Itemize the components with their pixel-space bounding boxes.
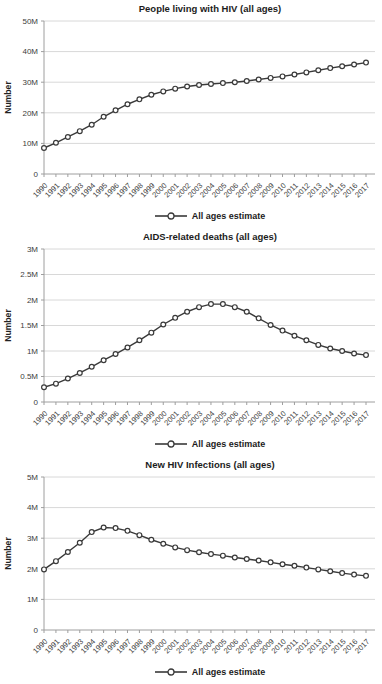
legend-line-marker-icon: [155, 439, 187, 449]
chart-aids-related-deaths: AIDS-related deaths (all ages) 00.5M1M1.…: [0, 228, 382, 456]
svg-text:5M: 5M: [27, 473, 38, 482]
svg-text:2M: 2M: [27, 296, 38, 305]
svg-text:2M: 2M: [27, 565, 38, 574]
svg-text:0: 0: [34, 170, 39, 179]
svg-text:0: 0: [34, 398, 39, 407]
svg-text:10M: 10M: [22, 139, 38, 148]
svg-text:Number: Number: [3, 537, 13, 570]
svg-text:1M: 1M: [27, 347, 38, 356]
svg-text:4M: 4M: [27, 503, 38, 512]
svg-text:0.5M: 0.5M: [20, 372, 38, 381]
svg-text:0: 0: [34, 626, 39, 635]
line-plot-canvas: 01M2M3M4M5M19901991199219931994199519961…: [0, 470, 382, 664]
svg-text:3M: 3M: [27, 534, 38, 543]
svg-text:3M: 3M: [27, 245, 38, 254]
svg-text:Number: Number: [3, 81, 13, 114]
chart-title: New HIV Infections (all ages): [44, 456, 376, 470]
legend-line-marker-icon: [155, 667, 187, 677]
svg-text:Number: Number: [3, 309, 13, 342]
line-plot-canvas: 00.5M1M1.5M2M2.5M3M199019911992199319941…: [0, 242, 382, 436]
svg-text:30M: 30M: [22, 78, 38, 87]
hiv-charts-page: People living with HIV (all ages) 010M20…: [0, 0, 382, 684]
svg-text:2.5M: 2.5M: [20, 270, 38, 279]
chart-people-living-with-hiv: People living with HIV (all ages) 010M20…: [0, 0, 382, 228]
legend-item[interactable]: All ages estimate: [44, 436, 376, 452]
legend-label: All ages estimate: [192, 439, 266, 449]
line-plot-canvas: 010M20M30M40M50M199019911992199319941995…: [0, 14, 382, 208]
svg-text:1.5M: 1.5M: [20, 321, 38, 330]
legend-item[interactable]: All ages estimate: [44, 664, 376, 680]
legend-line-marker-icon: [155, 211, 187, 221]
legend-item[interactable]: All ages estimate: [44, 208, 376, 224]
legend-label: All ages estimate: [192, 211, 266, 221]
svg-text:40M: 40M: [22, 47, 38, 56]
chart-title: People living with HIV (all ages): [44, 0, 376, 14]
svg-text:1M: 1M: [27, 595, 38, 604]
chart-new-hiv-infections: New HIV Infections (all ages) 01M2M3M4M5…: [0, 456, 382, 684]
chart-title: AIDS-related deaths (all ages): [44, 228, 376, 242]
legend-label: All ages estimate: [192, 667, 266, 677]
svg-text:50M: 50M: [22, 17, 38, 26]
svg-text:20M: 20M: [22, 109, 38, 118]
